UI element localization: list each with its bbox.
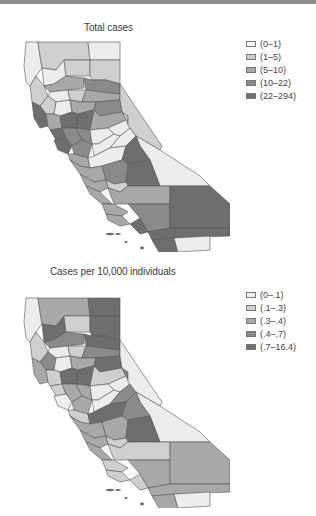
rate-panel: Cases per 10,000 individuals [0, 258, 316, 516]
total-cases-panel: Total cases [0, 0, 316, 258]
county [152, 238, 178, 252]
rate-title: Cases per 10,000 individuals [50, 266, 176, 277]
legend-label: (5–10) [260, 65, 286, 75]
legend-label: (.1–.3) [260, 303, 286, 313]
county [106, 214, 130, 226]
legend-item: (10–22) [246, 76, 296, 89]
county [170, 186, 230, 228]
county [46, 114, 62, 130]
legend-swatch [246, 344, 256, 350]
county [106, 470, 130, 482]
channel-islands [106, 489, 144, 506]
county [46, 370, 62, 386]
california-map-total-cases [10, 36, 230, 252]
legend-swatch [246, 292, 256, 298]
total-cases-legend: (0–1) (1–5) (5–10) (10–22) (22–294) [246, 37, 296, 102]
legend-label: (10–22) [260, 78, 291, 88]
legend-swatch [246, 54, 256, 60]
county [174, 236, 210, 252]
county [64, 60, 90, 76]
legend-item: (0–1) [246, 37, 296, 50]
legend-swatch [246, 318, 256, 324]
legend-label: (22–294) [260, 91, 296, 101]
legend-label: (0–.1) [260, 290, 284, 300]
legend-label: (.7–16.4) [260, 342, 296, 352]
legend-swatch [246, 80, 256, 86]
rate-legend: (0–.1) (.1–.3) (.3–.4) (.4–.7) (.7–16.4) [246, 288, 296, 353]
legend-item: (.7–16.4) [246, 340, 296, 353]
county [88, 298, 120, 316]
total-cases-title: Total cases [84, 22, 133, 33]
legend-item: (22–294) [246, 89, 296, 102]
legend-swatch [246, 93, 256, 99]
legend-item: (.4–.7) [246, 327, 296, 340]
legend-item: (.1–.3) [246, 301, 296, 314]
california-map-rate [10, 292, 230, 508]
legend-label: (.4–.7) [260, 329, 286, 339]
legend-label: (0–1) [260, 39, 281, 49]
legend-label: (1–5) [260, 52, 281, 62]
county [64, 316, 90, 332]
county [152, 494, 178, 508]
legend-label: (.3–.4) [260, 316, 286, 326]
legend-item: (5–10) [246, 63, 296, 76]
county [88, 42, 120, 60]
county [170, 442, 230, 484]
legend-item: (.3–.4) [246, 314, 296, 327]
legend-swatch [246, 305, 256, 311]
channel-islands [106, 233, 144, 250]
legend-item: (0–.1) [246, 288, 296, 301]
county [174, 492, 210, 508]
legend-swatch [246, 67, 256, 73]
legend-swatch [246, 331, 256, 337]
legend-swatch [246, 41, 256, 47]
legend-item: (1–5) [246, 50, 296, 63]
